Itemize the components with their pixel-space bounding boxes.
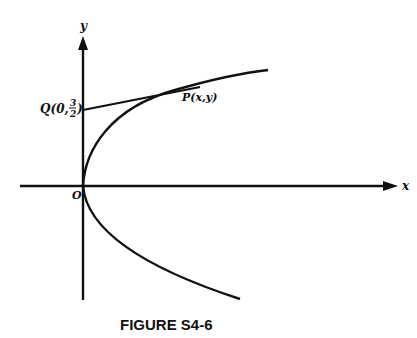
parabola-upper [83, 70, 268, 186]
origin-label: O [72, 189, 82, 202]
figure-caption: FIGURE S4-6 [120, 316, 213, 333]
y-axis-label: y [79, 19, 88, 33]
point-q-label: Q(0, [40, 102, 69, 116]
y-axis-arrow-icon [78, 36, 88, 50]
figure-diagram: y x O Q(0, 3 2 ) P(x,y) FIGURE S4-6 [0, 0, 417, 338]
point-q-frac-num: 3 [70, 98, 76, 108]
point-q-frac-den: 2 [69, 109, 76, 119]
x-axis-arrow-icon [383, 181, 398, 191]
point-p-label: P(x,y) [181, 91, 217, 104]
point-q-close: ) [76, 102, 83, 116]
parabola-lower [83, 186, 240, 299]
x-axis-label: x [401, 179, 410, 193]
